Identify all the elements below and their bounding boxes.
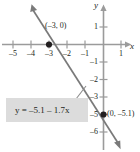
equation-label: y = –5.1 – 1.7x [15,106,70,115]
line-arrow-up-icon [30,4,37,12]
y-tick-label--1: –1 [90,58,98,66]
y-axis-arrow-icon [100,5,106,12]
y-axis-label: y [94,1,98,10]
x-tick-label--4: –4 [27,50,35,58]
y-tick-label--5: –5 [90,111,98,119]
point-label-y-intercept: (0, –5.1) [107,110,134,118]
plotted-line [30,4,120,149]
y-tick-label--3: –3 [90,93,98,101]
point-marker-y-intercept [100,111,106,117]
x-tick-label-1: 1 [119,50,123,58]
graph-canvas [0,0,140,152]
y-tick-label-1: 1 [94,23,98,31]
line-graph-figure: –5 –4 –3 –2 –1 1 1 –1 –2 –3 –5 –6 y x (–… [0,0,140,152]
point-marker-x-intercept [46,41,52,47]
x-axis-label: x [130,42,134,51]
x-tick-label--1: –1 [81,50,89,58]
y-tick-label--6: –6 [90,128,98,136]
x-tick-label--2: –2 [63,50,71,58]
y-tick-label--2: –2 [90,76,98,84]
line-arrow-down-icon [114,141,121,150]
y-axis [100,5,108,151]
x-axis [2,41,132,49]
x-tick-label--5: –5 [9,50,17,58]
x-tick-label--3: –3 [45,50,53,58]
point-label-x-intercept: (–3, 0) [45,22,66,30]
